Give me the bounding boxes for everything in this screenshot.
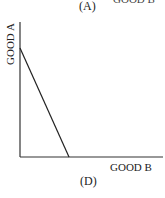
y-axis-label: GOOD A [4, 23, 16, 65]
panel-label-d: (D) [80, 175, 97, 187]
x-axis-label: GOOD B [110, 161, 152, 173]
budget-line [20, 48, 69, 157]
